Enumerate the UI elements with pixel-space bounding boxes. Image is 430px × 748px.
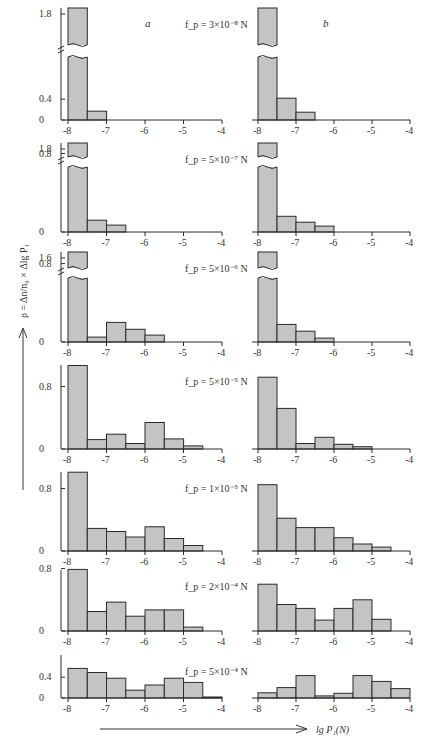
histogram-bar — [277, 605, 296, 632]
x-tick-label: -6 — [329, 237, 337, 248]
x-tick-label: -8 — [253, 237, 261, 248]
histogram-panel: -8-7-6-5-400.8-8-7-6-5-4f_p = 2×10⁻⁴ N — [39, 563, 413, 647]
histogram-bar — [315, 226, 334, 232]
histogram-bar — [277, 518, 296, 551]
histogram-panel: -8-7-6-5-400.41.8-8-7-6-5-4f_p = 3×10⁻⁸ … — [39, 8, 413, 136]
histogram-bar — [315, 528, 334, 551]
histogram-bar — [145, 335, 164, 342]
y-tick-label: 0.8 — [39, 483, 52, 494]
y-axis-title: ρ = Δn/n₀ × Δlg P₁ — [18, 244, 29, 318]
x-tick-label: -4 — [405, 125, 413, 136]
x-tick-label: -4 — [217, 703, 225, 714]
histogram-bar — [391, 689, 410, 698]
histogram-bar — [334, 608, 353, 631]
x-tick-label: -8 — [253, 454, 261, 465]
histogram-bar — [353, 544, 372, 551]
histogram-bar — [68, 8, 87, 120]
histogram-bar — [184, 546, 203, 552]
y-tick-label: 0 — [39, 336, 44, 347]
x-tick-label: -5 — [367, 347, 375, 358]
x-tick-label: -8 — [63, 556, 71, 567]
histogram-bar — [315, 338, 334, 342]
x-tick-label: -7 — [291, 703, 299, 714]
fp-label: f_p = 5×10⁻⁵ N — [185, 376, 248, 387]
histogram-bar — [277, 324, 296, 342]
histogram-bar — [68, 472, 87, 551]
histogram-bar — [68, 143, 87, 232]
x-tick-label: -5 — [179, 237, 187, 248]
histogram-bar — [68, 668, 87, 698]
y-tick-label: 1.8 — [39, 8, 52, 19]
histogram-bar — [87, 220, 106, 232]
histogram-bar — [296, 608, 315, 631]
histogram-bar — [296, 676, 315, 698]
histogram-bar — [353, 600, 372, 631]
histogram-bar — [68, 252, 87, 342]
histogram-bar — [126, 616, 145, 631]
axis-break-gap — [257, 45, 278, 57]
column-label-b: b — [323, 17, 329, 29]
histogram-a: -8-7-6-5-400.4 — [39, 655, 225, 714]
y-tick-label: 0 — [39, 692, 44, 703]
histogram-bar — [258, 584, 277, 631]
histogram-bar — [277, 98, 296, 120]
x-tick-label: -5 — [179, 454, 187, 465]
x-tick-label: -4 — [217, 636, 225, 647]
x-tick-label: -5 — [367, 636, 375, 647]
histogram-bar — [87, 528, 106, 551]
x-tick-label: -6 — [140, 237, 148, 248]
histogram-bar — [372, 619, 391, 631]
histogram-bar — [68, 569, 87, 631]
fp-label: f_p = 5×10⁻⁶ N — [185, 263, 248, 274]
x-axis-title: lg P₁(N) — [316, 724, 350, 736]
histogram-panel: -8-7-6-5-400.8-8-7-6-5-4f_p = 5×10⁻⁵ N — [39, 365, 413, 465]
x-axis-title-group: lg P₁(N) — [100, 724, 350, 736]
y-tick-label: 0.8 — [39, 381, 52, 392]
histogram-bar — [258, 252, 277, 342]
x-tick-label: -7 — [291, 125, 299, 136]
x-tick-label: -7 — [102, 454, 110, 465]
x-tick-label: -4 — [217, 347, 225, 358]
x-tick-label: -6 — [140, 454, 148, 465]
y-tick-label: 0 — [39, 545, 44, 556]
x-tick-label: -7 — [102, 237, 110, 248]
y-tick-label: 1.8 — [39, 143, 52, 154]
histogram-bar — [277, 216, 296, 232]
histogram-bar — [126, 537, 145, 551]
x-tick-label: -5 — [367, 237, 375, 248]
histogram-bar — [145, 610, 164, 631]
histogram-bar — [145, 423, 164, 450]
x-tick-label: -7 — [291, 237, 299, 248]
x-tick-label: -4 — [217, 237, 225, 248]
histogram-bar — [334, 693, 353, 698]
histogram-bar — [145, 527, 164, 551]
x-tick-label: -6 — [329, 556, 337, 567]
fp-label: f_p = 1×10⁻⁵ N — [185, 483, 248, 494]
x-tick-label: -7 — [102, 703, 110, 714]
histogram-bar — [334, 538, 353, 551]
histogram-b: -8-7-6-5-4 — [252, 584, 413, 647]
x-tick-label: -4 — [405, 237, 413, 248]
histogram-panels: -8-7-6-5-400.41.8-8-7-6-5-4f_p = 3×10⁻⁸ … — [39, 8, 413, 714]
x-tick-label: -6 — [329, 636, 337, 647]
y-axis-title-group: ρ = Δn/n₀ × Δlg P₁ — [18, 244, 29, 490]
histogram-bar — [126, 444, 145, 450]
x-tick-label: -5 — [367, 454, 375, 465]
histogram-bar — [107, 434, 126, 449]
histogram-bar — [296, 331, 315, 342]
x-tick-label: -7 — [291, 556, 299, 567]
histogram-bar — [277, 688, 296, 698]
histogram-bar — [184, 627, 203, 631]
histogram-bar — [184, 682, 203, 698]
x-tick-label: -4 — [405, 347, 413, 358]
x-tick-label: -8 — [253, 636, 261, 647]
histogram-a: -8-7-6-5-400.8 — [39, 563, 225, 647]
histogram-panel: -8-7-6-5-400.81.8-8-7-6-5-4f_p = 5×10⁻⁷ … — [39, 143, 413, 248]
fp-label: f_p = 2×10⁻⁴ N — [185, 581, 248, 592]
histogram-bar — [126, 690, 145, 698]
fp-label: f_p = 3×10⁻⁸ N — [185, 19, 248, 30]
histogram-bar — [164, 539, 183, 552]
x-tick-label: -8 — [253, 556, 261, 567]
y-tick-label: 0.8 — [39, 563, 52, 574]
x-tick-label: -8 — [253, 347, 261, 358]
